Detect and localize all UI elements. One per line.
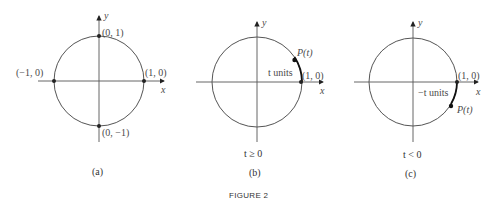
panel-caption: (c) bbox=[405, 168, 416, 180]
arc-label: t units bbox=[268, 67, 293, 78]
x-axis-label: x bbox=[475, 86, 481, 97]
point-label: (1, 0) bbox=[302, 70, 324, 82]
figure-title: FIGURE 2 bbox=[229, 191, 269, 200]
point-dot bbox=[97, 124, 101, 128]
point-p-dot bbox=[292, 58, 296, 62]
arc-label: −t units bbox=[418, 87, 448, 98]
point-label: (0, 1) bbox=[102, 27, 124, 39]
panel-caption: (a) bbox=[92, 166, 103, 178]
point-label: (−1, 0) bbox=[16, 67, 43, 79]
condition-label: t ≥ 0 bbox=[244, 148, 262, 159]
panel-a: y x (0, 1) (1, 0) (−1, 0) (0, −1) (a) bbox=[16, 10, 167, 178]
condition-label: t < 0 bbox=[403, 149, 421, 160]
unit-circle-figure: y x (0, 1) (1, 0) (−1, 0) (0, −1) (a) y … bbox=[0, 0, 499, 209]
point-label: (1, 0) bbox=[458, 70, 480, 82]
point-dot bbox=[142, 79, 146, 83]
point-dot bbox=[97, 34, 101, 38]
x-axis-label: x bbox=[319, 85, 325, 96]
point-label: (1, 0) bbox=[145, 67, 167, 79]
point-dot bbox=[52, 79, 56, 83]
point-p-label: P(t) bbox=[456, 104, 473, 116]
x-axis-label: x bbox=[160, 84, 166, 95]
point-p-dot bbox=[449, 104, 453, 108]
y-axis-label: y bbox=[261, 17, 267, 28]
panel-c: y x (1, 0) P(t) −t units t < 0 (c) bbox=[354, 17, 481, 180]
panel-b: y x (1, 0) P(t) t units t ≥ 0 (b) bbox=[196, 17, 325, 179]
point-p-label: P(t) bbox=[296, 47, 313, 59]
point-label: (0, −1) bbox=[102, 127, 129, 139]
panel-caption: (b) bbox=[249, 167, 261, 179]
y-axis-label: y bbox=[103, 10, 109, 21]
y-axis-label: y bbox=[417, 17, 423, 28]
arc-negative-t bbox=[451, 82, 457, 104]
